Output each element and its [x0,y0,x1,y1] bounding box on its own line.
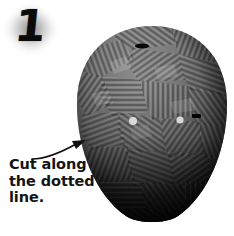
caption-text: Cut along the dotted line. [9,156,105,206]
instruction-illustration-page: 1 [0,0,234,236]
caption-line-3: line. [9,189,105,206]
step-number-text: 1 [0,0,65,55]
caption-line-2: the dotted [9,173,105,190]
caption-line-1: Cut along [9,156,105,173]
step-number-badge: 1 [0,0,64,58]
